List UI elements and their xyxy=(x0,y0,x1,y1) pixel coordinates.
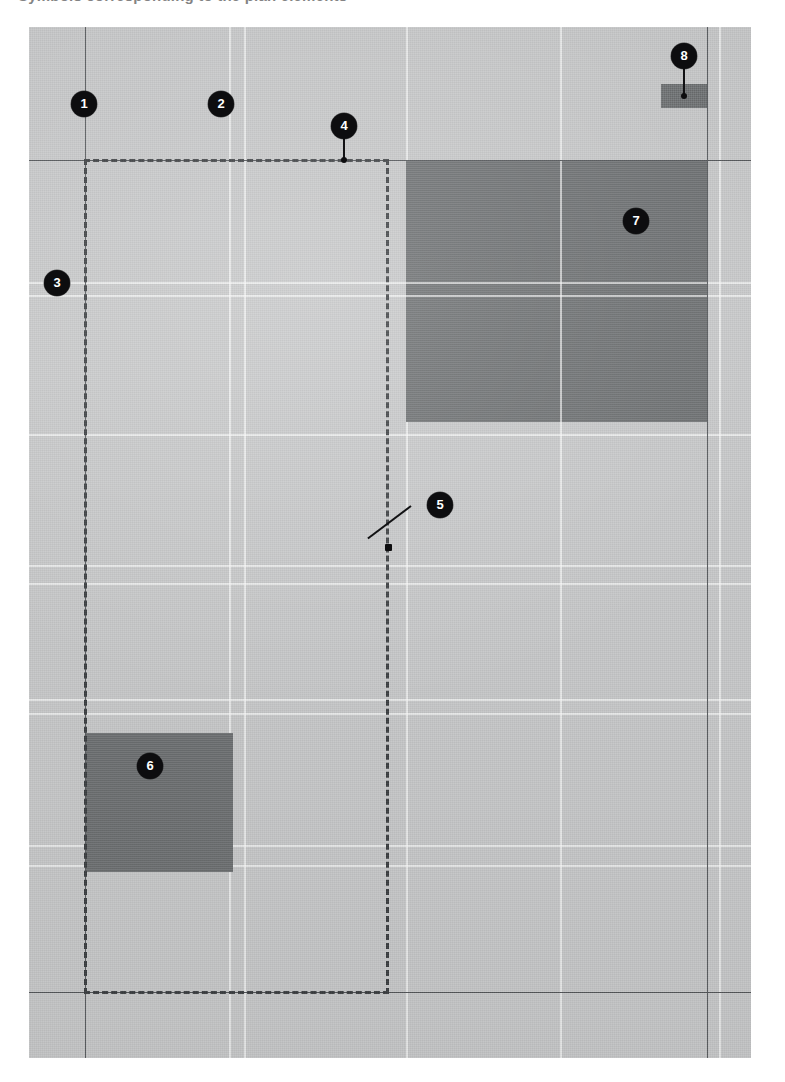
callout-marker-6[interactable]: 6 xyxy=(137,753,163,779)
callout-anchor-5 xyxy=(385,544,392,551)
grid-light-horizontal-over-block xyxy=(406,295,707,297)
callout-marker-1[interactable]: 1 xyxy=(71,91,97,117)
callout-marker-7[interactable]: 7 xyxy=(623,208,649,234)
callout-anchor-4 xyxy=(341,157,347,163)
grid-light-vertical xyxy=(719,27,721,1058)
dashed-outline-region xyxy=(84,159,389,994)
callout-marker-4[interactable]: 4 xyxy=(331,113,357,139)
grid-light-horizontal-over-block xyxy=(406,282,707,284)
drawing-canvas: 1 2 3 4 5 6 7 8 xyxy=(29,27,751,1058)
callout-anchor-8 xyxy=(681,93,687,99)
structural-line-vertical-right xyxy=(707,27,708,1058)
callout-marker-3[interactable]: 3 xyxy=(44,270,70,296)
callout-marker-8[interactable]: 8 xyxy=(671,43,697,69)
scan-header-text: Symbols corresponding to the plan elemen… xyxy=(18,0,347,4)
plan-page: Symbols corresponding to the plan elemen… xyxy=(0,0,785,1082)
callout-marker-5[interactable]: 5 xyxy=(427,492,453,518)
callout-marker-2[interactable]: 2 xyxy=(208,91,234,117)
scan-header-strip: Symbols corresponding to the plan elemen… xyxy=(0,0,785,14)
grid-light-vertical-over-block xyxy=(560,161,562,422)
large-filled-block xyxy=(406,161,707,422)
